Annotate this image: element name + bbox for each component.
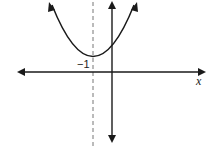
parabola-graph: −1 x <box>0 0 210 149</box>
x-axis-label: x <box>195 74 202 88</box>
tick-label-neg-one: −1 <box>77 58 90 70</box>
